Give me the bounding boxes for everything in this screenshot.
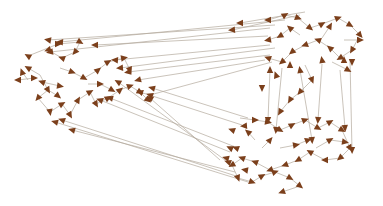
arrowhead-icon	[56, 82, 64, 90]
arrowhead-icon	[23, 51, 32, 60]
arrowhead-icon	[308, 76, 316, 85]
arrowhead-icon	[357, 37, 364, 43]
arrowhead-icon	[275, 32, 284, 41]
arrowhead-icon	[240, 123, 248, 130]
arrowhead-icon	[314, 124, 323, 133]
graph-edge	[118, 82, 225, 160]
graph-edge	[72, 130, 235, 172]
arrowhead-icon	[248, 178, 257, 186]
arrowhead-icon	[287, 61, 293, 68]
arrowhead-icon	[280, 161, 289, 169]
arrowhead-icon	[275, 108, 284, 117]
arrowhead-icon	[305, 147, 314, 156]
arrowhead-icon	[18, 67, 26, 76]
arrowhead-icon	[227, 126, 236, 134]
arrowhead-icon	[300, 41, 309, 49]
graph-edge	[350, 60, 352, 150]
arrowhead-icon	[58, 99, 67, 108]
graph-edge	[150, 98, 220, 160]
arrowhead-icon	[66, 111, 75, 120]
graph-edge	[100, 100, 230, 152]
arrowhead-icon	[97, 81, 104, 87]
graph-edge	[140, 92, 242, 125]
arrowhead-icon	[318, 19, 327, 28]
arrowhead-icon	[44, 36, 52, 44]
arrowhead-icon	[264, 36, 272, 44]
graph-edge	[28, 44, 58, 56]
arrowhead-icon	[50, 118, 58, 126]
arrowhead-icon	[44, 86, 53, 95]
arrowhead-icon	[326, 135, 335, 144]
arrowhead-icon	[147, 84, 155, 92]
arrowhead-icon	[31, 75, 38, 81]
arrowhead-icon	[120, 54, 128, 62]
arrowhead-icon	[14, 77, 21, 83]
arrowhead-icon	[86, 87, 95, 96]
arrowhead-icon	[272, 70, 280, 79]
arrowhead-icon	[296, 66, 304, 74]
arrowhead-icon	[236, 20, 243, 26]
arrowhead-icon	[314, 117, 321, 125]
arrowhead-icon	[321, 157, 328, 163]
arrowhead-icon	[344, 66, 353, 75]
arrowhead-icon	[313, 36, 322, 44]
arrowhead-icon	[288, 120, 297, 129]
arrowhead-icon	[326, 117, 335, 126]
arrowhead-icon	[54, 92, 63, 101]
graph-edge	[268, 70, 270, 120]
arrowhead-icon	[108, 86, 117, 95]
arrowhead-icon	[334, 14, 343, 22]
arrowhead-icon	[113, 77, 122, 86]
arrowhead-icon	[267, 66, 273, 73]
arrowhead-icon	[46, 108, 54, 116]
arrowhead-icon	[276, 126, 285, 135]
arrowhead-icon	[111, 56, 119, 63]
arrowhead-icon	[296, 182, 305, 191]
arrowhead-icon	[23, 63, 32, 72]
arrowhead-icon	[277, 188, 286, 196]
arrowhead-icon	[80, 74, 89, 83]
graph-edge	[318, 64, 322, 120]
arrowhead-icon	[286, 174, 295, 183]
arrowheads-layer	[14, 10, 365, 196]
arrowhead-icon	[318, 56, 326, 64]
graph-edge	[55, 122, 248, 182]
arrowhead-icon	[250, 158, 259, 166]
arrowhead-icon	[76, 38, 85, 47]
network-graph	[0, 0, 383, 206]
edges-layer	[18, 12, 360, 192]
arrowhead-icon	[241, 166, 249, 174]
graph-edge	[340, 70, 345, 128]
arrowhead-icon	[252, 117, 259, 123]
graph-edge	[62, 120, 236, 176]
arrowhead-icon	[104, 57, 113, 66]
arrowhead-icon	[94, 65, 103, 74]
arrowhead-icon	[116, 65, 124, 72]
arrowhead-icon	[74, 95, 83, 104]
arrowhead-icon	[306, 24, 315, 33]
arrowhead-icon	[258, 171, 267, 180]
arrowhead-icon	[347, 46, 356, 55]
arrowhead-icon	[293, 156, 302, 165]
arrowhead-icon	[37, 78, 46, 86]
arrowhead-icon	[68, 68, 77, 76]
graph-edge	[152, 88, 248, 118]
arrowhead-icon	[263, 54, 272, 62]
graph-edge	[120, 48, 275, 68]
arrowhead-icon	[292, 141, 300, 149]
arrowhead-icon	[57, 54, 66, 62]
arrowhead-icon	[259, 85, 265, 92]
arrowhead-icon	[133, 76, 141, 84]
